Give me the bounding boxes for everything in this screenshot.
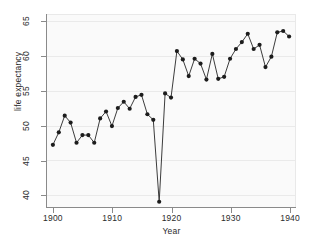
data-point [246,32,250,36]
data-point [216,77,220,81]
data-point [263,65,267,69]
data-point [51,143,55,147]
data-point [257,43,261,47]
data-point [204,77,208,81]
data-point [98,116,102,120]
y-tick-mark [41,126,46,127]
x-tick-label: 1910 [102,213,122,223]
y-tick-label-text: 45 [21,156,31,166]
chart-figure: 404550556065 19001910192019301940 life e… [0,0,316,249]
y-tick-mark [41,161,46,162]
data-point [139,93,143,97]
data-point [240,40,244,44]
y-tick-mark [41,56,46,57]
x-tick-label: 1900 [43,213,63,223]
data-point [86,133,90,137]
data-point [104,109,108,113]
data-point [151,118,155,122]
data-point [269,55,273,59]
data-point [116,106,120,110]
plot-area [47,14,296,208]
data-point [252,47,256,51]
data-point [222,75,226,79]
data-point [57,130,61,134]
data-point [169,96,173,100]
data-point [74,141,78,145]
data-point [228,57,232,61]
x-axis-title: Year [47,226,296,236]
x-tick-label: 1940 [280,213,300,223]
data-point [145,112,149,116]
data-point [163,91,167,95]
y-tick-label-text: 50 [21,121,31,131]
data-point [234,47,238,51]
data-point [281,29,285,33]
data-point [287,34,291,38]
data-point [110,124,114,128]
x-tick-label: 1920 [162,213,182,223]
y-axis-title: life expectancy [13,52,23,111]
x-tick-label: 1930 [221,213,241,223]
y-tick-mark [41,91,46,92]
y-tick-mark [41,21,46,22]
data-point [275,30,279,34]
series-line [53,31,289,202]
data-point [187,74,191,78]
y-tick-label-text: 65 [21,16,31,26]
y-tick-mark [41,195,46,196]
data-point [210,52,214,56]
data-point [69,121,73,125]
life-expectancy-series [47,15,295,208]
data-point [198,62,202,66]
data-point [157,200,161,204]
y-tick-label-text: 40 [21,190,31,200]
y-axis-line [46,14,47,208]
data-point [80,133,84,137]
series-markers [51,29,291,204]
data-point [128,107,132,111]
data-point [63,114,67,118]
data-point [133,95,137,99]
data-point [193,57,197,61]
data-point [175,49,179,53]
data-point [92,141,96,145]
data-point [181,57,185,61]
data-point [122,100,126,104]
